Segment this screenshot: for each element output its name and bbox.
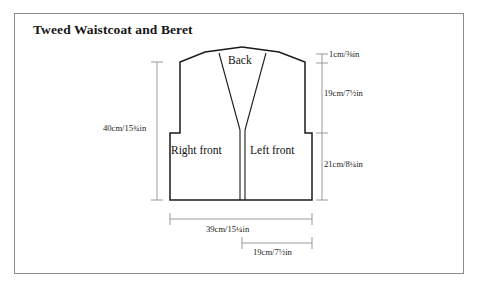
measurement-label-armhole-depth: 19cm/7½in: [324, 89, 363, 98]
waistcoat-outline-left: [170, 47, 242, 200]
measurement-label-hem-width: 39cm/15¼in: [206, 225, 249, 234]
panel-label-back: Back: [228, 54, 252, 66]
measurement-label-shoulder-rise: 1cm/⅜in: [329, 50, 359, 59]
dimension-line-right-stack: [316, 54, 328, 200]
dimension-line-total-length: [151, 62, 163, 200]
waistcoat-outline-right: [242, 47, 312, 200]
panel-label-left-front: Left front: [250, 145, 294, 157]
page-canvas: Tweed Waistcoat and Beret: [0, 0, 480, 290]
measurement-label-total-length: 40cm/15¾in: [103, 124, 146, 133]
panel-label-right-front: Right front: [171, 145, 222, 157]
measurement-label-front-half-width: 19cm/7½in: [253, 248, 292, 257]
measurement-label-underarm-to-hem: 21cm/8¼in: [324, 160, 363, 169]
waistcoat-schematic: [0, 0, 480, 290]
